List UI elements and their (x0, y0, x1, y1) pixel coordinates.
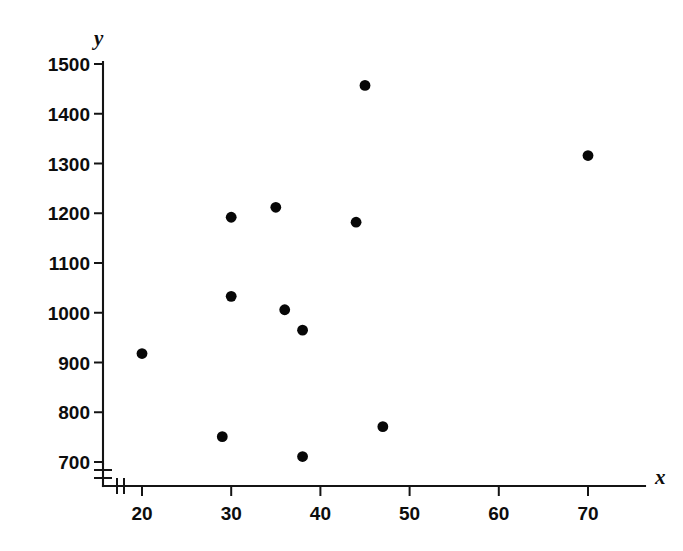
x-tick-label: 30 (221, 503, 242, 524)
y-tick-label: 1000 (48, 303, 90, 324)
y-tick-label: 1100 (49, 253, 90, 274)
x-tick-label: 60 (488, 503, 509, 524)
x-axis-tick-labels: 203040506070 (131, 503, 598, 524)
data-point (137, 348, 148, 359)
x-tick-label: 70 (577, 503, 598, 524)
data-point (297, 451, 308, 462)
y-axis-tick-labels: 700800900100011001200130014001500 (48, 54, 90, 473)
y-tick-label: 1200 (48, 203, 90, 224)
x-tick-label: 50 (399, 503, 420, 524)
data-point (583, 150, 594, 161)
plot-canvas: 700800900100011001200130014001500 203040… (0, 0, 683, 551)
y-tick-label: 900 (58, 353, 90, 374)
y-tick-label: 1500 (48, 54, 90, 75)
y-tick-label: 1400 (48, 104, 90, 125)
y-tick-label: 700 (58, 452, 90, 473)
data-point (279, 304, 290, 315)
data-point (270, 202, 281, 213)
y-axis-title: y (91, 26, 104, 50)
data-point (377, 421, 388, 432)
data-point (297, 325, 308, 336)
y-axis-break-icon (94, 464, 112, 486)
y-tick-label: 800 (58, 402, 90, 423)
data-point (360, 80, 371, 91)
data-point (226, 212, 237, 223)
data-point (351, 217, 362, 228)
x-tick-label: 20 (131, 503, 152, 524)
x-axis-title: x (654, 465, 666, 489)
y-axis-tick-marks (94, 64, 103, 462)
data-point (226, 291, 237, 302)
data-point-series (137, 80, 594, 462)
data-point (217, 431, 228, 442)
scatter-plot-figure: 700800900100011001200130014001500 203040… (0, 0, 683, 551)
y-tick-label: 1300 (48, 154, 90, 175)
x-tick-label: 40 (310, 503, 331, 524)
x-axis-tick-marks (142, 486, 588, 496)
